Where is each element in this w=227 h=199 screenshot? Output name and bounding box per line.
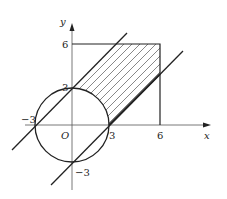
x-tick-neg3: −3	[21, 114, 36, 125]
origin-label: O	[61, 130, 69, 141]
y-axis-arrow-icon	[70, 23, 75, 31]
hatched-region	[8, 0, 227, 160]
x-axis-label: x	[204, 130, 210, 141]
diagram-canvas: y x O 6 3 −3 −3 3 6	[0, 0, 227, 199]
y-axis-label: y	[59, 16, 66, 27]
x-axis-arrow-icon	[203, 123, 211, 128]
y-tick-6: 6	[62, 39, 68, 50]
y-tick-neg3: −3	[75, 167, 90, 178]
x-tick-6: 6	[157, 130, 163, 141]
square-boundary	[72, 44, 160, 125]
x-tick-3: 3	[109, 130, 115, 141]
y-tick-3: 3	[62, 82, 68, 93]
